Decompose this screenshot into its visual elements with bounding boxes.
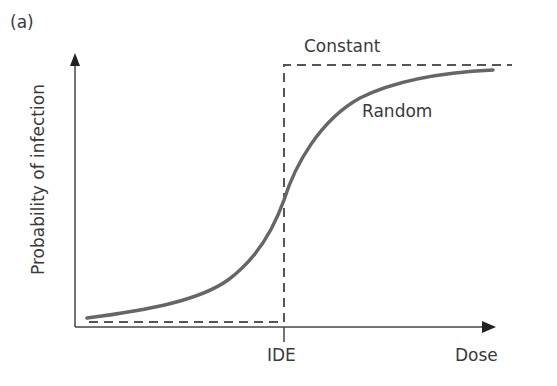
y-axis-label: Probability of infection <box>28 84 48 275</box>
ide-label: IDE <box>267 345 296 365</box>
constant-label: Constant <box>304 36 381 56</box>
panel-label: (a) <box>10 12 34 32</box>
y-axis-arrow-icon <box>70 53 80 66</box>
dose-response-diagram: (a) Constant Random IDE Dose Probability… <box>0 0 557 386</box>
x-axis-arrow-icon <box>482 321 496 333</box>
random-label: Random <box>362 101 432 121</box>
constant-series-line <box>89 65 512 322</box>
dose-label: Dose <box>455 345 498 365</box>
